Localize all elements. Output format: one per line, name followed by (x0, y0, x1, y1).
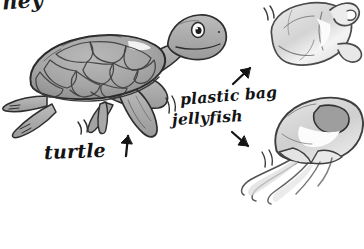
illustration-canvas: ney turtle plastic bag jellyfish (0, 0, 364, 249)
label-turtle: turtle (44, 139, 107, 163)
turtle-motion-marks (78, 96, 175, 134)
arrow-to-plastic-bag (233, 68, 250, 84)
arrow-to-jellyfish (232, 132, 248, 146)
label-jellyfish: jellyfish (172, 106, 244, 129)
arrow-to-turtle (121, 136, 132, 156)
